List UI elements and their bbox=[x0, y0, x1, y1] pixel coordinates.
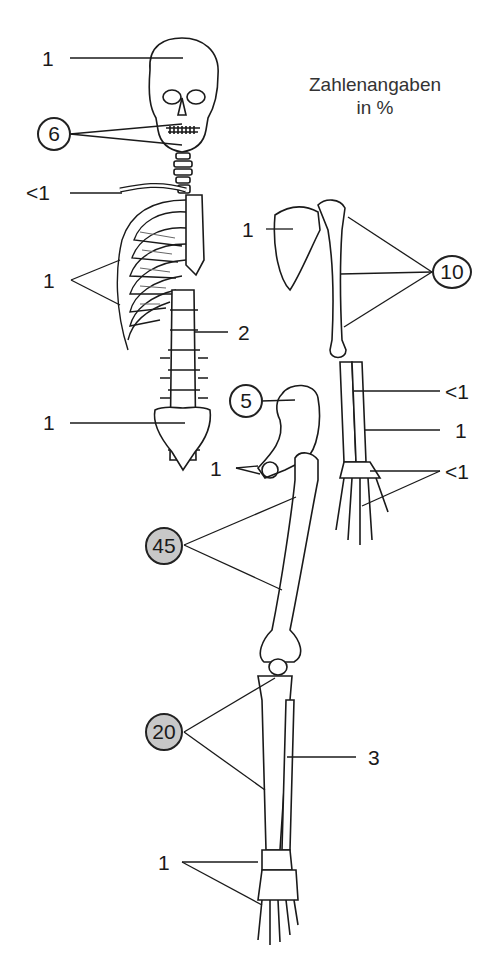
label-sacrum: 1 bbox=[43, 412, 55, 433]
label-clavicle: <1 bbox=[26, 182, 50, 203]
label-spine: 2 bbox=[238, 322, 250, 343]
label-radius: <1 bbox=[445, 381, 469, 402]
legend-note: Zahlenangaben in % bbox=[300, 73, 450, 119]
label-scapula: 1 bbox=[242, 219, 254, 240]
label-pelvis-pubis: 1 bbox=[210, 458, 222, 479]
label-pelvis-ilium: 5 bbox=[229, 384, 263, 418]
legend-line-2: in % bbox=[300, 96, 450, 119]
label-humerus: 10 bbox=[432, 255, 472, 289]
label-jaw-teeth: 6 bbox=[37, 117, 71, 151]
label-tibia: 20 bbox=[145, 713, 183, 751]
hand-drawing bbox=[336, 462, 388, 545]
label-foot: 1 bbox=[158, 852, 170, 873]
label-fibula: 3 bbox=[368, 747, 380, 768]
label-hand: <1 bbox=[445, 461, 469, 482]
label-ribs: 1 bbox=[43, 270, 55, 291]
skeleton-illustration bbox=[0, 0, 500, 966]
label-skull: 1 bbox=[42, 48, 54, 69]
label-femur: 45 bbox=[145, 527, 183, 565]
skull-drawing bbox=[149, 38, 218, 152]
legend-line-1: Zahlenangaben bbox=[300, 73, 450, 96]
label-ulna: 1 bbox=[455, 420, 467, 441]
foot-drawing bbox=[258, 850, 298, 945]
leader-lines bbox=[70, 58, 440, 905]
